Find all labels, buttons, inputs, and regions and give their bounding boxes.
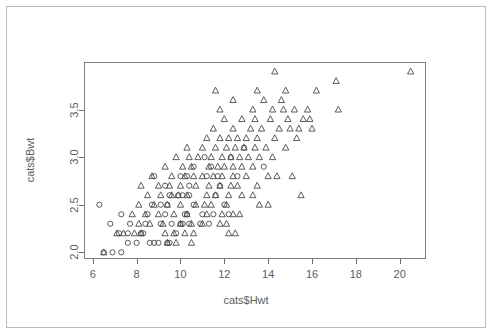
x-axis-tick (93, 259, 94, 264)
x-axis-tick (268, 259, 269, 264)
y-axis-title: cats$Bwt (24, 138, 36, 183)
x-axis-tick (400, 259, 401, 264)
x-axis-tick-label: 14 (262, 268, 274, 280)
x-axis-tick-label: 18 (350, 268, 362, 280)
x-axis-tick-label: 20 (394, 268, 406, 280)
scatter-plot-screenshot: 681012141618202.02.53.03.5 cats$Hwt cats… (0, 0, 492, 334)
y-axis-tick-label: 2.5 (68, 193, 80, 217)
x-axis-tick (356, 259, 357, 264)
x-axis-tick-label: 16 (306, 268, 318, 280)
x-axis-tick-label: 8 (134, 268, 140, 280)
x-axis-tick-label: 6 (90, 268, 96, 280)
x-axis-tick-label: 10 (174, 268, 186, 280)
x-axis-tick (137, 259, 138, 264)
y-axis-tick-label: 3.5 (68, 98, 80, 122)
x-axis-tick (312, 259, 313, 264)
y-axis-tick-label: 3.0 (68, 145, 80, 169)
x-axis-tick (180, 259, 181, 264)
x-axis-tick (224, 259, 225, 264)
x-axis-tick-label: 12 (218, 268, 230, 280)
y-axis-tick-label: 2.0 (68, 240, 80, 264)
plot-area-border (84, 62, 426, 259)
x-axis-title: cats$Hwt (223, 294, 268, 306)
